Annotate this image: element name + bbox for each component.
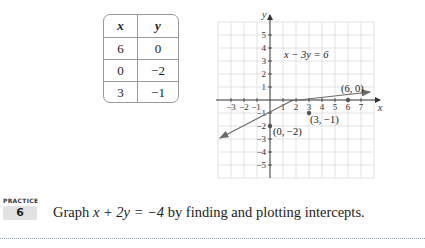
x-tick-label: 1 <box>281 102 286 112</box>
y-tick-label: 3 <box>262 56 267 66</box>
point-0-neg2 <box>268 124 272 128</box>
x-tick-label: 5 <box>333 102 338 112</box>
y-axis-label: y <box>261 9 267 20</box>
x-tick-label: −3 <box>226 102 236 112</box>
practice-problem-text: Graph x + 2y = −4 by finding and plottin… <box>53 204 365 221</box>
equation-label: x − 3y = 6 <box>283 49 329 60</box>
problem-prefix: Graph <box>53 204 93 220</box>
point-label: (6, 0) <box>341 83 364 95</box>
x-axis-label: x <box>377 102 383 113</box>
x-tick-label: 2 <box>294 102 299 112</box>
x-tick-label: 7 <box>359 102 364 112</box>
x-tick-label: −2 <box>239 102 249 112</box>
y-tick-label: 2 <box>262 69 267 79</box>
y-tick-label: 5 <box>262 30 267 40</box>
practice-label: PRACTICE <box>3 197 38 204</box>
x-tick-label: 3 <box>307 102 312 112</box>
problem-equation: x + 2y = −4 <box>93 204 164 220</box>
y-tick-label: −5 <box>256 160 266 170</box>
point-label: (3, −1) <box>310 114 339 126</box>
practice-number-badge: 6 <box>3 206 37 220</box>
y-tick-label: −4 <box>256 147 266 157</box>
point-6-0 <box>346 98 350 102</box>
y-tick-label: −3 <box>256 134 266 144</box>
y-tick-label: 4 <box>262 43 267 53</box>
y-tick-label: −2 <box>256 121 266 131</box>
problem-suffix: by finding and plotting intercepts. <box>164 204 365 220</box>
dotted-divider <box>0 238 425 239</box>
point-label: (0, −2) <box>273 126 302 138</box>
x-tick-label: 6 <box>346 102 351 112</box>
x-tick-label: 4 <box>320 102 325 112</box>
y-tick-label: 1 <box>262 82 267 92</box>
